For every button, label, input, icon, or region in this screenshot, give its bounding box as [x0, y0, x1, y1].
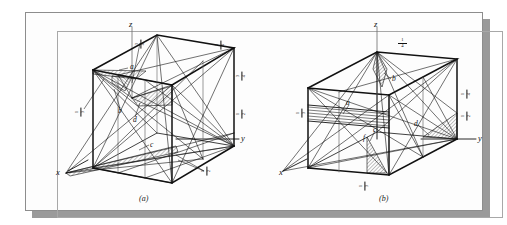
panel-a-intercept-right-lower: 1 2 [236, 110, 246, 119]
panel-b-plane-label-b: b [392, 74, 396, 83]
panel-b-axis-label-x: x [279, 167, 283, 177]
plane-b-region-c [367, 137, 387, 173]
panel-a-intercept-left: 1 3 [75, 108, 85, 117]
panel-a-plane-label-a: a [130, 62, 134, 71]
panel-b-plane-label-a: a [346, 98, 350, 107]
panel-a-plane-label-c: c [150, 140, 153, 149]
plane-a-region-b [112, 76, 132, 91]
panel-a-plane-label-b: b [118, 106, 122, 115]
panel-a-axis-label-y: y [241, 133, 245, 143]
panel-b-plane-label-c: c [373, 125, 376, 134]
panel-b-intercept-left: 1 3 [296, 109, 306, 118]
panel-a-caption: (a) [139, 194, 148, 203]
panel-b-plane-label-f: f [363, 133, 365, 142]
panel-b-caption: (b) [379, 194, 388, 203]
panel-b-plane-label-d: d [414, 119, 418, 128]
panel-a-intercept-right-upper: 3 4 [236, 72, 246, 81]
panel-b-axis-label-y: y [478, 133, 482, 143]
panel-a-intercept-bottom: 1 2 [201, 167, 211, 176]
figure-plate: z y x a b c d 3 4 1 3 3 4 3 4 1 2 1 2 [25, 12, 483, 211]
plane-b-region-d [423, 113, 457, 139]
panel-a-plane-label-d: d [133, 115, 137, 124]
panel-a-axis-label-z: z [129, 19, 132, 29]
panel-b-axis-label-z: z [374, 19, 377, 29]
plane-a-region-d [132, 86, 172, 106]
panel-a-axis-label-x: x [56, 167, 60, 177]
panel-b-intercept-right-upper: 1 4 [461, 90, 471, 99]
panel-a-intercept-z-top: 3 4 [135, 40, 145, 49]
panel-b-intercept-bottom: 1 3 [359, 182, 369, 191]
panel-b-intercept-right-lower: 1 2 [461, 112, 471, 121]
panel-a-intercept-y-far: 3 4 [215, 41, 225, 50]
panel-b-intercept-z-top: 1 4 [398, 38, 407, 48]
